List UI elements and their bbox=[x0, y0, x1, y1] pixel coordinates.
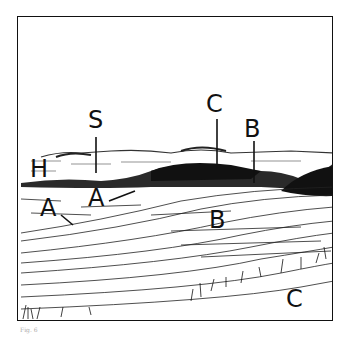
label-c-bottom: C bbox=[286, 287, 303, 311]
figure-frame bbox=[17, 16, 333, 321]
label-c-top: C bbox=[206, 92, 223, 116]
label-h: H bbox=[30, 157, 48, 181]
label-a-center: A bbox=[88, 186, 104, 210]
figure-caption: Fig. 6 bbox=[20, 326, 38, 333]
label-s: S bbox=[88, 108, 103, 132]
label-b-top: B bbox=[244, 117, 260, 141]
label-b-center: B bbox=[209, 208, 225, 232]
landscape-illustration bbox=[18, 17, 333, 321]
label-a-left: A bbox=[40, 196, 56, 220]
